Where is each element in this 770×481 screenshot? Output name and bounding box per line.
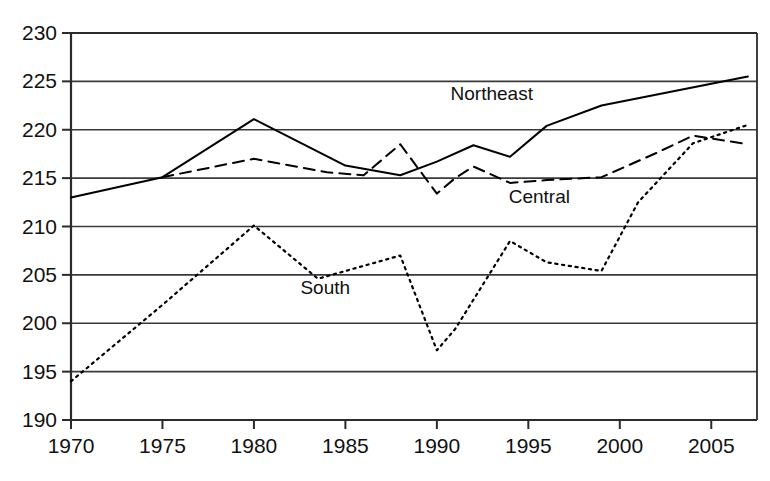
x-tick-label: 1990 [414,434,461,457]
y-tick-label: 220 [22,118,57,141]
x-tick-label: 1975 [139,434,186,457]
x-tick-label: 1985 [322,434,369,457]
y-tick-marks [62,33,71,420]
x-tick-label: 1970 [48,434,95,457]
series-line-south [71,125,748,381]
y-tick-label: 225 [22,69,57,92]
series-line-northeast [71,77,748,198]
x-tick-label: 2000 [596,434,643,457]
series-label-northeast: Northeast [451,83,534,104]
series-label-south: South [300,277,350,298]
x-tick-label: 1995 [505,434,552,457]
x-tick-label: 2005 [688,434,735,457]
y-tick-label: 230 [22,21,57,44]
y-tick-labels: 230225220215210205200195190 [22,21,57,431]
x-tick-label: 1980 [231,434,278,457]
x-tick-marks [71,420,711,429]
series-label-central: Central [509,186,570,207]
y-tick-label: 210 [22,215,57,238]
line-chart: 230225220215210205200195190 197019751980… [0,0,770,481]
series-line-central [162,136,747,194]
y-tick-label: 200 [22,311,57,334]
y-tick-label: 195 [22,360,57,383]
chart-canvas: 230225220215210205200195190 197019751980… [0,0,770,481]
y-tick-label: 190 [22,408,57,431]
x-tick-labels: 19701975198019851990199520002005 [48,434,735,457]
gridlines [71,33,757,420]
y-tick-label: 215 [22,166,57,189]
y-tick-label: 205 [22,263,57,286]
